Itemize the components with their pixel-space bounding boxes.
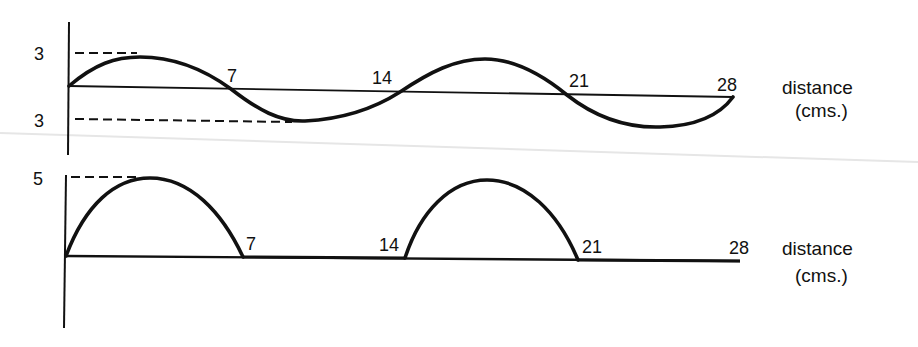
top-axis-title-line2: (cms.) xyxy=(795,100,848,121)
sine-wave-curve xyxy=(69,57,733,127)
top-x-tick-7: 7 xyxy=(227,66,237,86)
zero-segment-1 xyxy=(243,257,405,258)
top-y-label-lower: 3 xyxy=(34,111,44,131)
pulse-curve-2 xyxy=(405,180,578,260)
top-wave-diagram: 3 3 7 14 21 28 distance (cms.) xyxy=(34,22,853,155)
top-y-label-upper: 3 xyxy=(34,44,44,64)
pulse-curve-1 xyxy=(66,178,243,257)
bottom-x-tick-7: 7 xyxy=(246,234,256,254)
bottom-x-tick-14: 14 xyxy=(379,235,399,255)
bottom-amplitude-dashed-line xyxy=(75,119,292,122)
rectified-wave-diagram: 5 7 14 21 28 distance (cms.) xyxy=(33,169,853,328)
zero-segment-2 xyxy=(578,260,740,261)
top-axis-title-line1: distance xyxy=(782,77,853,98)
bottom-y-axis xyxy=(64,175,66,328)
bottom-x-tick-21: 21 xyxy=(582,237,602,257)
bottom-y-label-upper: 5 xyxy=(33,169,43,189)
bottom-x-tick-28: 28 xyxy=(729,238,749,258)
top-x-tick-14: 14 xyxy=(372,68,392,88)
diagram-canvas: 3 3 7 14 21 28 distance (cms.) 5 7 14 21… xyxy=(0,0,918,347)
bottom-axis-title-line1: distance xyxy=(782,238,853,259)
top-x-tick-21: 21 xyxy=(569,71,589,91)
top-x-tick-28: 28 xyxy=(717,75,737,95)
top-y-axis xyxy=(68,22,69,155)
bottom-axis-title-line2: (cms.) xyxy=(795,265,848,286)
scan-crease xyxy=(0,133,918,162)
